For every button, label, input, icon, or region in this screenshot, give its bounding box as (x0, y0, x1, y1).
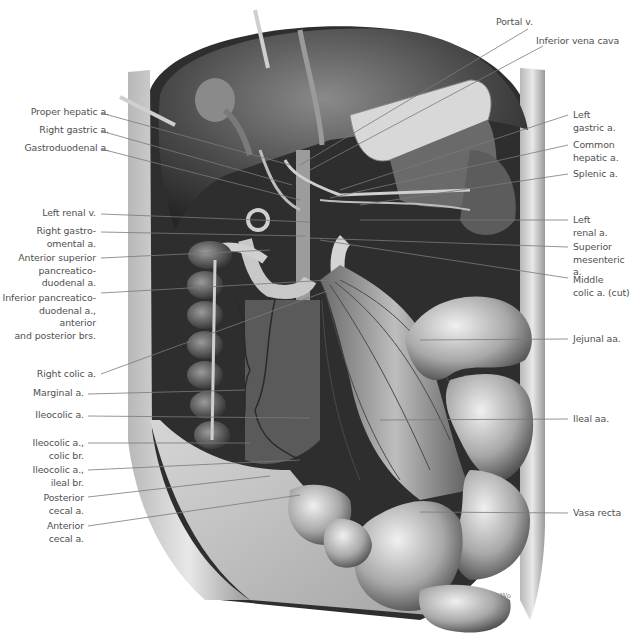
label-anterior-superior-pancreaticoduodenal-a: Anterior superior pancreatico- duodenal … (18, 252, 96, 290)
label-ileocolic-a-ileal-br: Ileocolic a., ileal br. (32, 464, 84, 489)
label-jejunal-aa: Jejunal aa. (573, 333, 621, 346)
label-inferior-pancreaticoduodenal-a: Inferior pancreatico- duodenal a., anter… (0, 292, 96, 342)
label-inferior-vena-cava: Inferior vena cava (536, 35, 619, 48)
label-left-gastric-a: Left gastric a. (573, 109, 616, 134)
label-proper-hepatic-a: Proper hepatic a. (31, 106, 109, 119)
label-posterior-cecal-a: Posterior cecal a. (43, 492, 84, 517)
label-ileocolic-a-colic-br: Ileocolic a., colic br. (32, 437, 84, 462)
label-common-hepatic-a: Common hepatic a. (573, 139, 619, 164)
label-right-colic-a: Right colic a. (37, 368, 96, 381)
label-left-renal-v: Left renal v. (42, 207, 96, 220)
label-left-renal-a: Left renal a. (573, 214, 608, 239)
label-middle-colic-a-cut: Middle colic a. (cut) (573, 274, 630, 299)
label-right-gastro-omental-a: Right gastro- omental a. (36, 225, 96, 250)
label-anterior-cecal-a: Anterior cecal a. (47, 520, 84, 545)
label-marginal-a: Marginal a. (33, 387, 84, 400)
label-superior-mesenteric-a: Superior mesenteric a. (573, 241, 630, 279)
label-gastroduodenal-a: Gastroduodenal a. (24, 142, 109, 155)
label-right-gastric-a: Right gastric a. (39, 124, 109, 137)
artist-signature: Wo (500, 592, 511, 600)
label-vasa-recta: Vasa recta (573, 507, 621, 520)
label-portal-v: Portal v. (496, 16, 533, 29)
label-ileocolic-a: Ileocolic a. (35, 409, 84, 422)
label-ileal-aa: Ileal aa. (573, 413, 609, 426)
label-splenic-a: Splenic a. (573, 168, 618, 181)
anatomical-figure: Wo (0, 0, 630, 641)
